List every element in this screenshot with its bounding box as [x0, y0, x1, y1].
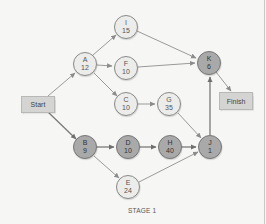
edge-b-e	[94, 156, 119, 178]
edge-k-finish	[216, 72, 231, 91]
right-border	[264, 0, 265, 224]
node-h-duration: 40	[166, 147, 174, 155]
edge-a-i	[93, 35, 116, 55]
node-h-id: H	[167, 139, 172, 147]
node-a: A 12	[73, 52, 97, 76]
edge-start-b	[48, 112, 76, 139]
finish-label: Finish	[227, 98, 246, 105]
start-label: Start	[31, 101, 46, 108]
edge-start-a	[48, 73, 75, 96]
node-b-duration: 9	[83, 147, 87, 155]
node-b: B 9	[73, 135, 97, 159]
node-g: G 35	[157, 92, 181, 116]
node-g-id: G	[166, 96, 171, 104]
node-f-duration: 10	[122, 68, 130, 76]
node-j-duration: 1	[208, 147, 212, 155]
node-g-duration: 35	[165, 104, 173, 112]
node-d-duration: 10	[124, 147, 132, 155]
finish-box: Finish	[219, 92, 253, 110]
node-k-id: K	[207, 55, 212, 63]
edge-f-k	[138, 63, 195, 67]
node-d-id: D	[125, 139, 130, 147]
node-i: I 15	[114, 15, 138, 39]
node-b-id: B	[83, 139, 88, 147]
node-e-id: E	[126, 179, 131, 187]
node-k-duration: 6	[207, 63, 211, 71]
stage-caption: STAGE 1	[128, 207, 156, 214]
node-j: J 1	[198, 135, 222, 159]
node-d: D 10	[116, 135, 140, 159]
node-i-id: I	[125, 19, 127, 27]
edge-g-j	[178, 113, 201, 138]
node-e-duration: 24	[124, 187, 132, 195]
node-c-duration: 10	[122, 104, 130, 112]
edge-a-c	[94, 73, 117, 96]
node-k: K 6	[197, 51, 221, 75]
node-f: F 10	[114, 56, 138, 80]
start-box: Start	[21, 96, 55, 113]
node-a-duration: 12	[81, 64, 89, 72]
node-c: C 10	[114, 92, 138, 116]
network-diagram: Start Finish A 12 I 15 F 10 C 10 G 35 K …	[0, 0, 266, 224]
node-f-id: F	[124, 60, 128, 68]
node-j-id: J	[208, 139, 212, 147]
node-e: E 24	[116, 175, 140, 199]
edge-i-k	[137, 31, 196, 58]
node-h: H 40	[158, 135, 182, 159]
edge-a-f	[97, 65, 112, 66]
node-i-duration: 15	[122, 27, 130, 35]
node-a-id: A	[83, 56, 88, 64]
node-c-id: C	[123, 96, 128, 104]
